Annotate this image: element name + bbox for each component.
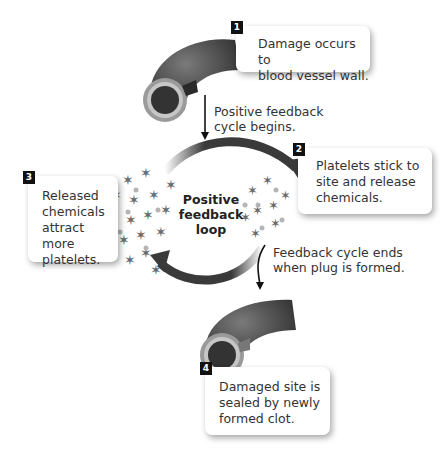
svg-text:✶: ✶ <box>268 198 279 213</box>
step-4-card: 4 Damaged site is sealed by newly formed… <box>205 367 330 435</box>
svg-text:✶: ✶ <box>148 187 160 203</box>
step-3-text: Released chemicals attract more platelet… <box>42 188 118 268</box>
svg-text:✶: ✶ <box>247 183 258 198</box>
svg-text:✶: ✶ <box>125 212 137 228</box>
step-3-card: 3 Released chemicals attract more platel… <box>28 176 118 262</box>
step-2-card: 2 Platelets stick to site and release ch… <box>298 148 432 214</box>
loop-arrow-bottom <box>150 248 262 280</box>
svg-text:✶: ✶ <box>124 252 136 268</box>
svg-text:✶: ✶ <box>250 226 261 241</box>
svg-text:✶: ✶ <box>135 227 147 243</box>
svg-text:✶: ✶ <box>155 224 167 240</box>
svg-text:✶: ✶ <box>140 165 152 181</box>
step-1-number: 1 <box>231 21 243 34</box>
svg-text:✶: ✶ <box>128 192 140 208</box>
svg-text:✶: ✶ <box>142 207 154 223</box>
svg-text:✶: ✶ <box>270 216 281 231</box>
platelets-right: ✶✶✶ ✶✶✶ ✶✶ <box>240 173 291 241</box>
svg-text:✶: ✶ <box>160 202 172 218</box>
sealed-vessel-illustration <box>200 300 296 377</box>
step-3-number: 3 <box>23 171 35 184</box>
step-1-text: Damage occurs to blood vessel wall. <box>258 36 370 84</box>
step-2-text: Platelets stick to site and release chem… <box>316 158 419 206</box>
cycle-begins-label: Positive feedback cycle begins. <box>214 104 324 134</box>
svg-text:✶: ✶ <box>165 177 177 193</box>
step-2-number: 2 <box>293 143 305 156</box>
svg-text:✶: ✶ <box>280 188 291 203</box>
step-4-text: Damaged site is sealed by newly formed c… <box>219 379 320 427</box>
step-4-number: 4 <box>200 362 212 375</box>
svg-text:✶: ✶ <box>122 172 134 188</box>
svg-text:✶: ✶ <box>150 262 162 278</box>
step-1-card: 1 Damage occurs to blood vessel wall. <box>236 26 370 72</box>
cycle-ends-label: Feedback cycle ends when plug is formed. <box>273 245 405 275</box>
svg-text:✶: ✶ <box>262 173 273 188</box>
center-loop-label: Positive feedback loop <box>176 192 246 237</box>
down-arrow-begins <box>201 95 209 140</box>
loop-arrow-top <box>165 142 306 178</box>
